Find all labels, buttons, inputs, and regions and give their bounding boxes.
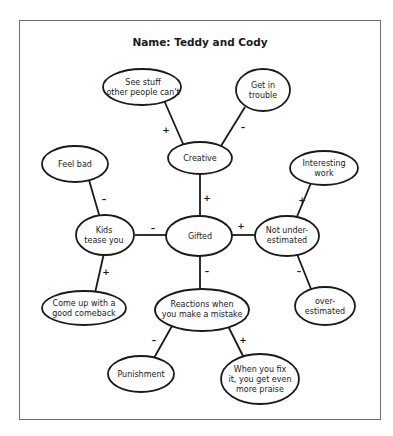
svg-text:trouble: trouble (249, 91, 278, 100)
svg-text:good comeback: good comeback (52, 309, 116, 318)
svg-text:See stuff: See stuff (125, 78, 161, 87)
sign-creative-get-in-trouble: – (241, 122, 246, 132)
svg-text:Kids: Kids (96, 226, 113, 235)
svg-text:Creative: Creative (183, 154, 217, 163)
svg-text:it, you get even: it, you get even (228, 375, 291, 384)
edge-creative-see-stuff (163, 98, 184, 146)
node-come-up: Come up with a good comeback (42, 291, 126, 325)
sign-creative-see-stuff: + (162, 125, 170, 135)
node-kids-tease: Kids tease you (76, 215, 134, 255)
svg-text:Get in: Get in (251, 81, 275, 90)
node-interesting-work: Interesting work (290, 151, 358, 185)
svg-text:Feel bad: Feel bad (58, 160, 92, 169)
sign-not-under-interesting: + (298, 195, 306, 205)
svg-text:work: work (314, 169, 334, 178)
edge-reactions-punishment (154, 326, 172, 358)
edge-kids-feel-bad (89, 180, 100, 218)
svg-text:Come up with a: Come up with a (53, 299, 116, 308)
node-over-estimated: over- estimated (295, 287, 355, 325)
node-creative: Creative (168, 142, 232, 174)
sign-reactions-punishment: – (152, 335, 157, 345)
sign-not-under-over: – (297, 266, 302, 276)
svg-text:When you fix: When you fix (234, 365, 287, 374)
sign-gifted-reactions: – (205, 266, 210, 276)
node-get-in-trouble: Get in trouble (236, 69, 290, 111)
svg-text:estimated: estimated (305, 307, 345, 316)
svg-text:more praise: more praise (236, 385, 284, 394)
concept-map: Name: Teddy and Cody + – + – – + + + – –… (0, 0, 393, 436)
svg-text:Gifted: Gifted (188, 232, 212, 241)
node-feel-bad: Feel bad (42, 146, 108, 182)
sign-gifted-creative: + (203, 193, 211, 203)
node-punishment: Punishment (108, 356, 174, 392)
svg-text:Reactions when: Reactions when (170, 300, 233, 309)
svg-text:tease you: tease you (84, 236, 123, 245)
page-title: Name: Teddy and Cody (132, 36, 267, 48)
node-when-you-fix: When you fix it, you get even more prais… (221, 354, 299, 404)
sign-gifted-not-under: + (237, 221, 245, 231)
svg-text:Interesting: Interesting (302, 159, 345, 168)
svg-text:Punishment: Punishment (117, 370, 164, 379)
svg-text:you make a mistake: you make a mistake (162, 310, 243, 319)
sign-gifted-kids: – (151, 223, 156, 233)
svg-text:other people can't: other people can't (106, 88, 179, 97)
svg-text:over-: over- (315, 297, 335, 306)
node-see-stuff: See stuff other people can't (103, 69, 181, 105)
svg-text:Not under-: Not under- (266, 226, 308, 235)
sign-kids-come-up: + (102, 267, 110, 277)
node-gifted: Gifted (166, 216, 232, 256)
node-not-under-estimated: Not under- estimated (255, 216, 319, 256)
node-reactions: Reactions when you make a mistake (155, 289, 249, 331)
sign-reactions-when-fix: + (239, 335, 247, 345)
svg-text:estimated: estimated (267, 236, 307, 245)
sign-kids-feel-bad: – (102, 194, 107, 204)
